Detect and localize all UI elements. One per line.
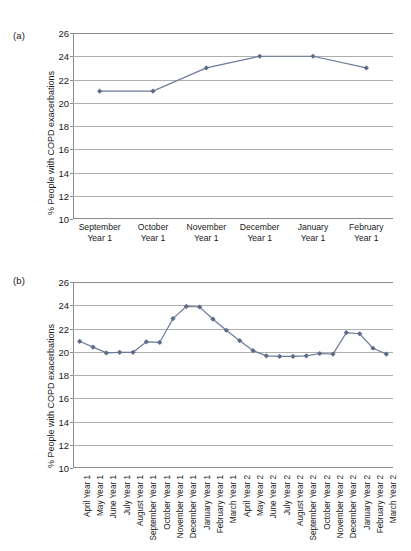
y-axis-tick-label: 12: [58, 190, 69, 201]
x-axis-label-text: March Year 2: [389, 475, 398, 523]
y-axis-tick-label: 10: [58, 463, 69, 474]
x-axis-label: FebruaryYear 1: [340, 222, 393, 256]
x-axis-label: January Year 1: [193, 473, 206, 549]
x-axis-labels-b: April Year 1May Year 1June Year 1July Ye…: [73, 473, 393, 549]
data-point-marker: [384, 351, 389, 356]
y-axis-tick-label: 16: [58, 393, 69, 404]
data-point-marker: [277, 354, 282, 359]
y-axis-tick-label: 16: [58, 144, 69, 155]
y-axis-tick-mark: [70, 219, 73, 220]
y-axis-tick-label: 20: [58, 97, 69, 108]
chart-panel-b: (b) % People with COPD exacerbations 101…: [0, 268, 411, 551]
x-axis-label: SeptemberYear 1: [73, 222, 126, 256]
data-point-marker: [97, 89, 102, 94]
data-point-marker: [264, 353, 269, 358]
x-axis-label: JanuaryYear 1: [286, 222, 339, 256]
data-point-marker: [77, 339, 82, 344]
figure-container: (a) % People with COPD exacerbations 101…: [0, 0, 411, 551]
x-axis-label: October Year 2: [313, 473, 326, 549]
x-axis-label: August Year 1: [126, 473, 139, 549]
plot-area-b: 101214161820222426: [73, 282, 393, 468]
y-axis-tick-label: 14: [58, 416, 69, 427]
data-point-marker: [364, 65, 369, 70]
y-axis-tick-label: 10: [58, 214, 69, 225]
x-axis-label: August Year 2: [286, 473, 299, 549]
x-axis-label: OctoberYear 1: [126, 222, 179, 256]
data-point-marker: [310, 54, 315, 59]
y-axis-tick-label: 14: [58, 167, 69, 178]
x-axis-label: February Year 1: [206, 473, 219, 549]
y-axis-tick-label: 12: [58, 439, 69, 450]
y-axis-tick-label: 24: [58, 300, 69, 311]
y-axis-tick-mark: [70, 468, 73, 469]
x-axis-label: January Year 2: [353, 473, 366, 549]
y-axis-tick-label: 18: [58, 370, 69, 381]
panel-label-a: (a): [13, 30, 25, 41]
x-axis-label: May Year 1: [86, 473, 99, 549]
y-axis-tick-label: 26: [58, 28, 69, 39]
x-axis-label: July Year 1: [113, 473, 126, 549]
y-axis-title-b: % People with COPD exacerbations: [46, 324, 56, 468]
x-axis-label: DecemberYear 1: [233, 222, 286, 256]
data-point-marker: [257, 54, 262, 59]
y-axis-title-a: % People with COPD exacerbations: [46, 71, 56, 215]
x-axis-label: September Year 2: [300, 473, 313, 549]
data-point-marker: [150, 89, 155, 94]
x-axis-label: March Year 2: [380, 473, 393, 549]
x-axis-label: May Year 2: [246, 473, 259, 549]
x-axis-label: February Year 2: [366, 473, 379, 549]
panel-label-b: (b): [13, 275, 25, 286]
data-point-marker: [104, 350, 109, 355]
data-series-a: [73, 33, 393, 219]
x-axis-label: November Year 2: [326, 473, 339, 549]
y-axis-tick-label: 24: [58, 51, 69, 62]
x-axis-label: April Year 1: [73, 473, 86, 549]
x-axis-label: July Year 2: [273, 473, 286, 549]
plot-area-a: 101214161820222426: [73, 33, 393, 219]
x-axis-label: November Year 1: [166, 473, 179, 549]
series-line: [100, 56, 367, 91]
x-axis-label: April Year 2: [233, 473, 246, 549]
x-axis-label: December Year 1: [180, 473, 193, 549]
y-axis-tick-label: 22: [58, 323, 69, 334]
series-line: [80, 306, 387, 356]
x-axis-label: September Year 1: [140, 473, 153, 549]
x-axis-labels-a: SeptemberYear 1OctoberYear 1NovemberYear…: [73, 222, 393, 256]
y-axis-tick-label: 18: [58, 121, 69, 132]
y-axis-tick-label: 20: [58, 346, 69, 357]
data-point-marker: [317, 351, 322, 356]
data-point-marker: [204, 65, 209, 70]
chart-panel-a: (a) % People with COPD exacerbations 101…: [0, 0, 411, 268]
data-point-marker: [117, 350, 122, 355]
data-point-marker: [304, 353, 309, 358]
data-point-marker: [157, 340, 162, 345]
x-axis-label: March Year 1: [220, 473, 233, 549]
data-series-b: [73, 282, 393, 468]
x-axis-label: June Year 2: [260, 473, 273, 549]
data-point-marker: [290, 354, 295, 359]
data-point-marker: [90, 345, 95, 350]
x-axis-label: NovemberYear 1: [180, 222, 233, 256]
x-axis-label: June Year 1: [100, 473, 113, 549]
x-axis-label: December Year 2: [340, 473, 353, 549]
y-axis-tick-label: 26: [58, 277, 69, 288]
x-axis-label: October Year 1: [153, 473, 166, 549]
y-axis-tick-label: 22: [58, 74, 69, 85]
